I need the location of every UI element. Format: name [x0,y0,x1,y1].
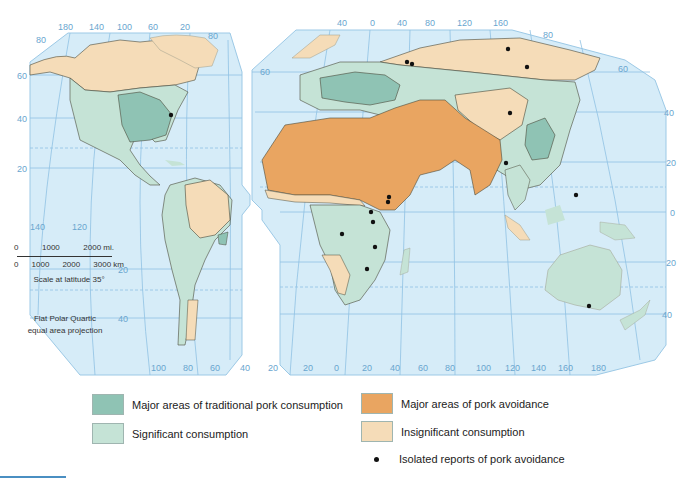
svg-text:120: 120 [457,18,472,28]
svg-text:120: 120 [505,363,520,373]
svg-text:60: 60 [17,71,27,81]
svg-text:40: 40 [390,363,400,373]
svg-text:40: 40 [664,108,674,118]
legend-label: Major areas of traditional pork consumpt… [132,399,343,411]
svg-text:60: 60 [618,64,628,74]
svg-text:140: 140 [89,22,104,32]
svg-text:60: 60 [148,22,158,32]
scale-mi-2000: 2000 mi. [83,243,114,252]
divider [0,476,66,478]
scale-bar: 0 1000 2000 mi. 0 1000 2000 3000 km Scal… [14,243,144,284]
svg-text:120: 120 [72,222,87,232]
svg-text:40: 40 [240,363,250,373]
svg-text:140: 140 [531,363,546,373]
legend-label: Significant consumption [132,428,248,440]
legend-traditional: Major areas of traditional pork consumpt… [92,394,343,415]
legend-label: Isolated reports of pork avoidance [399,453,565,465]
legend-significant: Significant consumption [92,423,248,444]
svg-text:60: 60 [210,363,220,373]
legend-isolated-reports: Isolated reports of pork avoidance [361,453,565,465]
svg-text:160: 160 [493,18,508,28]
svg-text:40: 40 [337,18,347,28]
svg-text:60: 60 [418,363,428,373]
projection-note: Flat Polar Quartic equal area projection [10,313,120,337]
svg-text:100: 100 [476,363,491,373]
svg-text:20: 20 [303,363,313,373]
svg-text:180: 180 [58,22,73,32]
svg-text:80: 80 [543,30,553,40]
svg-text:80: 80 [208,31,218,41]
svg-text:80: 80 [183,363,193,373]
legend-label: Insignificant consumption [401,426,525,438]
swatch-avoidance [361,393,393,414]
projection-line-1: Flat Polar Quartic [10,313,120,325]
svg-text:20: 20 [180,22,190,32]
svg-text:180: 180 [591,363,606,373]
swatch-traditional [92,394,124,415]
scale-mi-1000: 1000 [42,243,60,252]
svg-text:0: 0 [670,208,675,218]
scale-km-3000: 3000 km [93,260,124,269]
svg-text:100: 100 [151,363,166,373]
svg-text:20: 20 [17,164,27,174]
svg-text:80: 80 [445,363,455,373]
svg-text:40: 40 [662,310,672,320]
scale-km-2000: 2000 [62,260,80,269]
svg-text:160: 160 [558,363,573,373]
scale-km-0: 0 [14,260,18,269]
legend-label: Major areas of pork avoidance [401,398,549,410]
svg-text:140: 140 [30,222,45,232]
svg-text:20: 20 [268,363,278,373]
svg-text:40: 40 [397,18,407,28]
dot-icon [374,457,379,462]
scale-line [14,253,124,259]
svg-text:20: 20 [362,363,372,373]
svg-text:20: 20 [666,158,676,168]
swatch-insignificant [361,421,393,442]
svg-text:40: 40 [17,114,27,124]
svg-text:0: 0 [370,18,375,28]
svg-text:0: 0 [334,363,339,373]
scale-mi-0: 0 [14,243,18,252]
legend-avoidance: Major areas of pork avoidance [361,393,549,414]
svg-text:80: 80 [425,18,435,28]
swatch-significant [92,423,124,444]
svg-text:80: 80 [36,35,46,45]
legend-insignificant: Insignificant consumption [361,421,525,442]
svg-text:20: 20 [666,258,676,268]
scale-caption: Scale at latitude 35° [14,275,124,284]
scale-km-1000: 1000 [32,260,50,269]
projection-line-2: equal area projection [10,325,120,337]
svg-text:60: 60 [260,67,270,77]
svg-text:100: 100 [117,22,132,32]
eastern-hemisphere-panel [252,30,666,375]
